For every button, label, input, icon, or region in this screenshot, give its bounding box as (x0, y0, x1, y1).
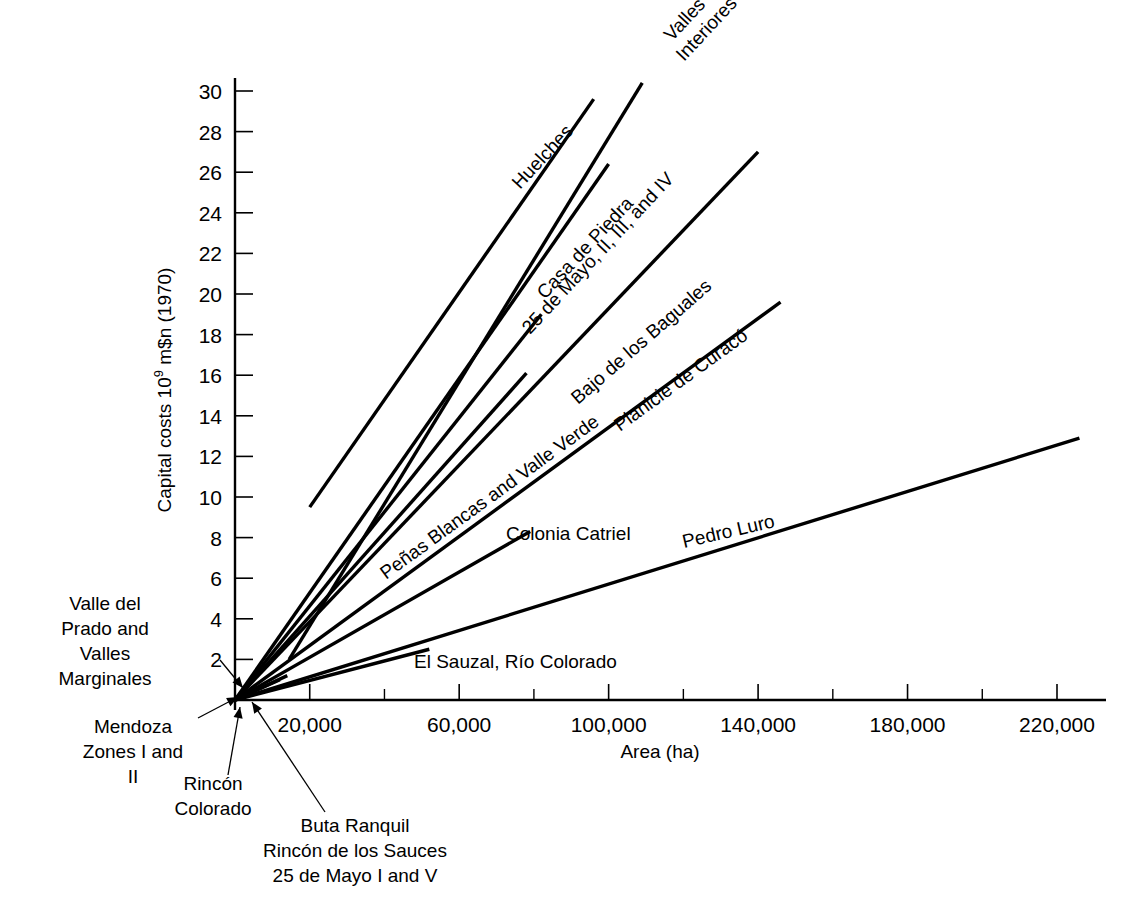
x-axis-tick-label: 180,000 (870, 713, 946, 736)
x-axis-tick-label: 20,000 (278, 713, 342, 736)
annotation-text-line: Rincón de los Sauces (263, 840, 447, 861)
annotation-text-line: Marginales (59, 668, 152, 689)
annotation-text-line: II (128, 766, 139, 787)
annotation-text-line: Colorado (174, 798, 251, 819)
annotation-text-line: Rincón (183, 773, 242, 794)
annotation-text-line: Mendoza (94, 716, 173, 737)
x-axis-title: Area (ha) (620, 741, 699, 762)
x-axis-tick-label: 60,000 (427, 713, 491, 736)
series-inline-label: Colonia Catriel (506, 523, 631, 544)
y-axis-tick-label: 30 (199, 80, 222, 103)
y-axis-tick-label: 22 (199, 242, 222, 265)
annotation-text-line: 25 de Mayo I and V (273, 865, 438, 886)
y-axis-tick-label: 20 (199, 283, 222, 306)
series-inline-label: El Sauzal, Río Colorado (414, 651, 617, 672)
y-axis-tick-label: 26 (199, 161, 222, 184)
y-axis-title: Capital costs 109 m$n (1970) (151, 268, 175, 513)
y-axis-tick-label: 6 (210, 567, 222, 590)
y-axis-tick-label: 24 (199, 202, 223, 225)
x-axis-tick-label: 220,000 (1019, 713, 1095, 736)
y-axis-tick-label: 4 (210, 608, 222, 631)
y-axis-tick-label: 28 (199, 121, 222, 144)
annotation-text-line: Zones I and (83, 741, 183, 762)
annotation-text-line: Prado and (61, 618, 149, 639)
annotation-text-line: Buta Ranquil (301, 815, 410, 836)
y-axis-tick-label: 18 (199, 324, 222, 347)
y-axis-title-exponent: 9 (151, 370, 166, 377)
y-axis-tick-label: 16 (199, 364, 222, 387)
capital-costs-vs-area-chart: 2468101214161820222426283020,00060,00010… (0, 0, 1126, 906)
y-axis-tick-label: 12 (199, 445, 222, 468)
chart-root: 2468101214161820222426283020,00060,00010… (0, 0, 1126, 906)
y-axis-title-post: m$n (1970) (154, 268, 175, 370)
y-axis-tick-label: 10 (199, 486, 222, 509)
x-axis-tick-label: 100,000 (571, 713, 647, 736)
annotation-text-line: Valle del (69, 593, 140, 614)
annotation-text-line: Valles (80, 643, 130, 664)
y-axis-tick-label: 8 (210, 527, 222, 550)
x-axis-tick-label: 140,000 (720, 713, 796, 736)
y-axis-title-pre: Capital costs 10 (154, 377, 175, 512)
y-axis-tick-label: 14 (199, 405, 223, 428)
